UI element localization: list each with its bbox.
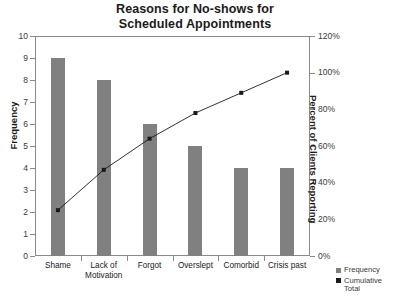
y-tick-label-right: 60% xyxy=(318,142,335,151)
bar-series-frequency xyxy=(35,36,310,256)
y-tick-label-left: 5 xyxy=(23,142,28,151)
y-tick-label-right: 40% xyxy=(318,178,335,187)
x-category-label: Forgot xyxy=(127,261,173,271)
y-tick-label-left: 7 xyxy=(23,98,28,107)
y-tick-label-right: 80% xyxy=(318,105,335,114)
chart-title-line-2: Scheduled Appointments xyxy=(60,17,330,32)
y-tick-label-right: 100% xyxy=(318,68,340,77)
bar xyxy=(97,80,111,256)
pareto-chart: Reasons for No-shows for Scheduled Appoi… xyxy=(0,0,407,298)
legend-swatch-icon xyxy=(336,278,341,283)
y-tick-left xyxy=(30,256,35,257)
legend-item: Cumulative Total xyxy=(336,277,382,294)
bar xyxy=(234,168,248,256)
y-tick-right xyxy=(310,256,315,257)
x-category-label: Overslept xyxy=(173,261,219,271)
y-axis-left-title: Frequency xyxy=(8,91,19,161)
legend-item: Frequency xyxy=(336,266,382,275)
y-tick-label-left: 2 xyxy=(23,208,28,217)
y-tick-label-left: 8 xyxy=(23,76,28,85)
chart-title: Reasons for No-shows for Scheduled Appoi… xyxy=(60,2,330,32)
y-tick-label-left: 0 xyxy=(23,252,28,261)
bar xyxy=(188,146,202,256)
x-category-label-line: Shame xyxy=(35,261,81,271)
legend-label: Frequency xyxy=(344,266,380,275)
x-category-label: Crisis past xyxy=(264,261,310,271)
y-tick-label-right: 120% xyxy=(318,32,340,41)
chart-title-line-1: Reasons for No-shows for xyxy=(116,2,274,16)
x-category-label: Shame xyxy=(35,261,81,271)
x-category-label-line: Motivation xyxy=(81,271,127,281)
bar xyxy=(51,58,65,256)
x-category-label-line: Crisis past xyxy=(264,261,310,271)
x-category-label-line: Lack of xyxy=(81,261,127,271)
y-tick-label-right: 0% xyxy=(318,252,330,261)
y-tick-right xyxy=(310,73,315,74)
bar xyxy=(280,168,294,256)
y-tick-label-left: 4 xyxy=(23,164,28,173)
chart-legend: FrequencyCumulative Total xyxy=(336,266,382,296)
y-tick-label-right: 20% xyxy=(318,215,335,224)
x-category-label: Comorbid xyxy=(218,261,264,271)
y-tick-label-left: 6 xyxy=(23,120,28,129)
y-tick-label-left: 9 xyxy=(23,54,28,63)
x-category-label: Lack ofMotivation xyxy=(81,261,127,280)
legend-label: Cumulative Total xyxy=(344,277,382,294)
legend-swatch-icon xyxy=(336,268,341,273)
bar xyxy=(143,124,157,256)
x-category-label-line: Overslept xyxy=(173,261,219,271)
y-tick-right xyxy=(310,36,315,37)
y-tick-label-left: 3 xyxy=(23,186,28,195)
x-category-label-line: Comorbid xyxy=(218,261,264,271)
y-tick-label-left: 1 xyxy=(23,230,28,239)
y-tick-label-left: 10 xyxy=(19,32,28,41)
x-category-label-line: Forgot xyxy=(127,261,173,271)
